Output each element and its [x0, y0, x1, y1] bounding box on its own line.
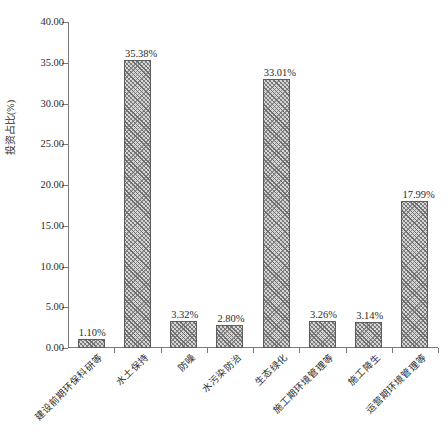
bar: 3.32%: [170, 321, 197, 348]
bar: 17.99%: [401, 201, 428, 348]
y-tick-label: 25.00: [40, 137, 64, 151]
y-axis-line: [68, 22, 69, 348]
y-axis-title: 投资占比(%): [2, 58, 17, 198]
bar-slot: 2.80%: [216, 22, 243, 348]
y-tick-label: 35.00: [40, 56, 64, 70]
bar-value-label: 33.01%: [264, 67, 296, 78]
bar-slot: 17.99%: [401, 22, 428, 348]
bar-slot: 1.10%: [78, 22, 105, 348]
bar-slot: 33.01%: [263, 22, 290, 348]
y-tick-label: 40.00: [40, 15, 64, 29]
bar: 33.01%: [263, 79, 290, 348]
x-tick-7: [392, 348, 393, 353]
bar-slot: 35.38%: [124, 22, 151, 348]
bar: 2.80%: [216, 325, 243, 348]
bar-value-label: 1.10%: [79, 327, 106, 338]
y-tick-label: 5.00: [46, 300, 64, 314]
bar: 3.26%: [309, 321, 336, 348]
y-tick-label: 30.00: [40, 97, 64, 111]
y-tick-label: 10.00: [40, 260, 64, 274]
bar-slot: 3.32%: [170, 22, 197, 348]
bar-value-label: 17.99%: [402, 189, 434, 200]
y-tick-label: 15.00: [40, 219, 64, 233]
x-tick-1: [114, 348, 115, 353]
bar: 3.14%: [355, 322, 382, 348]
bar-value-label: 3.14%: [356, 310, 383, 321]
x-category-label: 建设前期环保科研等: [0, 352, 105, 440]
bar-chart: 投资占比(%) 0.005.0010.0015.0020.0025.0030.0…: [0, 0, 448, 440]
x-tick-end: [438, 348, 439, 353]
x-tick-4: [253, 348, 254, 353]
y-tick-label: 20.00: [40, 178, 64, 192]
bar-value-label: 3.32%: [171, 309, 198, 320]
x-tick-3: [207, 348, 208, 353]
x-tick-5: [299, 348, 300, 353]
x-tick-2: [161, 348, 162, 353]
y-tick-label: 0.00: [46, 341, 64, 355]
bar-value-label: 35.38%: [125, 48, 157, 59]
bar: 35.38%: [124, 60, 151, 348]
bar-slot: 3.26%: [309, 22, 336, 348]
bar-value-label: 2.80%: [217, 313, 244, 324]
bar-value-label: 3.26%: [310, 309, 337, 320]
bar-slot: 3.14%: [355, 22, 382, 348]
x-tick-6: [346, 348, 347, 353]
plot-area: 0.005.0010.0015.0020.0025.0030.0035.0040…: [68, 22, 438, 348]
bar: 1.10%: [78, 339, 105, 348]
